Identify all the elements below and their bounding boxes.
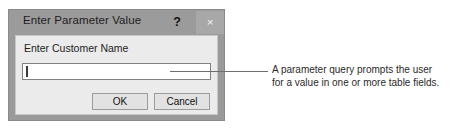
dialog-title: Enter Parameter Value (23, 14, 141, 26)
ok-button[interactable]: OK (92, 93, 148, 110)
text-caret (26, 66, 28, 77)
parameter-prompt-label: Enter Customer Name (24, 42, 128, 54)
dialog-body: Enter Customer Name OK Cancel (15, 35, 218, 115)
enter-parameter-value-dialog: Enter Parameter Value ? × Enter Customer… (8, 9, 225, 121)
close-icon[interactable]: × (196, 11, 224, 34)
annotation-line-2: for a value in one or more table fields. (272, 76, 450, 89)
annotation-line-1: A parameter query prompts the user (272, 63, 450, 76)
help-icon[interactable]: ? (169, 13, 185, 31)
screenshot-root: Enter Parameter Value ? × Enter Customer… (0, 0, 450, 131)
cancel-button[interactable]: Cancel (154, 93, 210, 110)
annotation-leader-line (170, 71, 268, 72)
dialog-titlebar[interactable]: Enter Parameter Value ? × (9, 10, 224, 35)
annotation-text: A parameter query prompts the user for a… (272, 63, 450, 89)
